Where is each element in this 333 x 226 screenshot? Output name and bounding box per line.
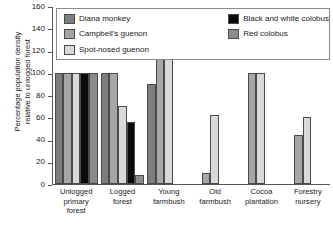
bar — [101, 73, 110, 184]
legend: Diana monkeyCampbell's guenonSpot-nosed … — [56, 8, 330, 60]
x-axis-label: Forestry nursery — [285, 187, 331, 216]
bar — [109, 73, 118, 184]
legend-item[interactable]: Red colobus — [228, 28, 329, 41]
x-axis-label: Unlogged primary forest — [53, 187, 99, 216]
y-tick-label: 80 — [36, 91, 45, 101]
legend-item-label: Diana monkey — [79, 14, 130, 24]
y-tick-label: 120 — [32, 46, 45, 56]
legend-column-right: Black and white colobusRed colobus — [228, 12, 329, 59]
y-tick: 80 — [48, 96, 52, 97]
bar — [118, 106, 127, 184]
bar — [303, 117, 312, 184]
y-tick-label: 40 — [36, 135, 45, 145]
x-axis-label: Old farmbush — [192, 187, 238, 216]
y-tick-label: 60 — [36, 113, 45, 123]
legend-swatch-icon — [228, 29, 239, 39]
x-axis-label: Cocoa plantation — [238, 187, 284, 216]
y-tick: 160 — [48, 7, 52, 8]
legend-column-left: Diana monkeyCampbell's guenonSpot-nosed … — [64, 12, 184, 59]
bar — [127, 122, 136, 184]
y-axis-title: Percentage population density relative t… — [13, 0, 32, 167]
y-tick: 60 — [48, 118, 52, 119]
y-tick: 100 — [48, 74, 52, 75]
legend-item-label: Red colobus — [243, 29, 287, 39]
bar — [202, 173, 211, 184]
y-tick: 120 — [48, 52, 52, 53]
y-tick: 20 — [48, 163, 52, 164]
y-tick-label: 0 — [41, 180, 45, 190]
bar — [210, 115, 219, 184]
y-tick-label: 140 — [32, 24, 45, 34]
bar — [80, 73, 89, 184]
legend-item-label: Black and white colobus — [243, 14, 329, 24]
legend-swatch-icon — [228, 14, 239, 24]
legend-item[interactable]: Diana monkey — [64, 12, 184, 25]
legend-item-label: Spot-nosed guenon — [79, 45, 149, 55]
legend-item[interactable]: Campbell's guenon — [64, 28, 184, 41]
bar — [135, 175, 144, 184]
legend-swatch-icon — [64, 14, 75, 24]
bar — [147, 84, 156, 184]
legend-swatch-icon — [64, 29, 75, 39]
bar — [248, 73, 257, 184]
legend-item[interactable]: Black and white colobus — [228, 12, 329, 25]
x-axis-label: Young farmbush — [146, 187, 192, 216]
bar — [294, 135, 303, 184]
y-tick-label: 100 — [32, 68, 45, 78]
y-tick-label: 160 — [32, 2, 45, 12]
y-tick-label: 20 — [36, 157, 45, 167]
bar — [72, 73, 81, 184]
bar — [63, 73, 72, 184]
x-axis-labels: Unlogged primary forestLogged forestYoun… — [53, 187, 331, 216]
bar-chart: Percentage population density relative t… — [0, 0, 333, 226]
bar — [256, 73, 265, 184]
y-tick: 40 — [48, 141, 52, 142]
legend-item[interactable]: Spot-nosed guenon — [64, 43, 184, 56]
x-axis-line — [52, 184, 330, 185]
y-tick: 0 — [48, 185, 52, 186]
bar — [89, 73, 98, 184]
bar — [156, 55, 165, 184]
bar — [55, 73, 64, 184]
y-tick: 140 — [48, 29, 52, 30]
legend-swatch-icon — [64, 45, 75, 55]
legend-item-label: Campbell's guenon — [79, 29, 147, 39]
x-axis-label: Logged forest — [99, 187, 145, 216]
